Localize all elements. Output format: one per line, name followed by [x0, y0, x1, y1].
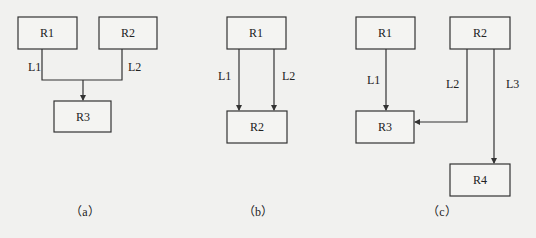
network-topology-diagram: R1 R2 R3 L1 L2 （a） R1 R2 L1 L2 （b） R1 R2… [0, 0, 536, 238]
node-r2-label: R2 [250, 120, 264, 134]
node-r2-label: R2 [473, 26, 487, 40]
panel-c: R1 R2 R3 R4 L1 L2 L3 （c） [356, 17, 519, 219]
node-r3-label: R3 [378, 120, 392, 134]
panel-a: R1 R2 R3 L1 L2 （a） [18, 17, 157, 219]
node-r1-label: R1 [249, 26, 263, 40]
link-l2-label: L2 [446, 77, 459, 91]
link-l1-l2-merge [42, 49, 122, 80]
node-r1-label: R1 [378, 26, 392, 40]
link-l2-label: L2 [282, 69, 295, 83]
panel-b: R1 R2 L1 L2 （b） [218, 17, 295, 219]
caption-c: （c） [427, 205, 456, 219]
link-l1-label: L1 [28, 60, 41, 74]
caption-a: （a） [70, 205, 99, 219]
caption-b: （b） [243, 205, 273, 219]
link-l1-label: L1 [218, 69, 231, 83]
node-r4-label: R4 [473, 173, 487, 187]
node-r3-label: R3 [76, 110, 90, 124]
link-l2-label: L2 [128, 60, 141, 74]
node-r1-label: R1 [40, 26, 54, 40]
node-r2-label: R2 [121, 26, 135, 40]
link-l3-label: L3 [506, 77, 519, 91]
link-l1-label: L1 [367, 73, 380, 87]
